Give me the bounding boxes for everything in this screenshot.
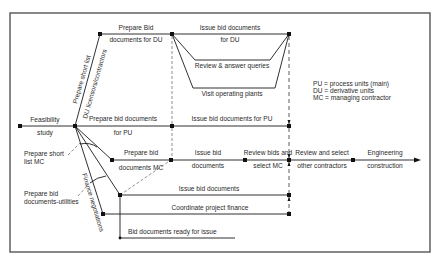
node-finance-end [287,212,291,216]
node-util-issue [287,193,291,197]
node-du-short-list [98,32,102,36]
label-review-bids: Review bids and [244,149,293,156]
legend: PU = process units (main) DU = derivativ… [313,80,392,102]
legend-mc: MC = managing contractor [313,94,392,102]
label-prep-bid-util-2: documents-utilities [24,198,79,205]
label-issue-bid-pu: Issue bid documents for PU [192,115,273,122]
node-select-other [351,158,355,162]
label-prep-bid-du-2: documents for DU [109,36,162,43]
arrowhead-icon [288,197,291,201]
node-start [18,124,22,128]
node-mc-prep [169,158,173,162]
label-review-queries: Review & answer queries [195,62,270,70]
label-short-list-mc: Prepare short [24,150,64,158]
label-prep-bid-mc: Prepare bid [124,149,158,157]
node-pu-issue [287,124,291,128]
label-prep-bid-pu: Prepare bid documents [89,115,158,123]
callout-short-list-mc [68,143,80,155]
label-feasibility-2: study [37,129,53,137]
node-du-prep [170,32,174,36]
label-review-select-2: other contractors [297,162,347,169]
node-feasibility-end [73,124,77,128]
node-du-issue [287,32,291,36]
arrowhead-icon [288,120,291,124]
node-mc-review [287,158,291,162]
arrowhead-icon [414,158,421,163]
node-mc-issue [243,158,247,162]
label-issue-bid-mc-2: documents [192,162,225,169]
label-issue-bid-mc: Issue bid [195,149,222,156]
node-bid-ready [119,237,122,240]
label-prep-bid-mc-2: documents MC [119,164,164,171]
node-mc-short-list [110,158,114,162]
label-review-bids-2: select MC [253,162,283,169]
label-short-list-mc-2: list MC [24,158,44,165]
label-issue-bid-du-2: for DU [220,36,239,43]
node-pu-prep [170,124,174,128]
label-coordinate-finance: Coordinate project finance [172,204,249,212]
label-bid-docs-ready: Bid documents ready for issue [128,228,217,236]
label-prep-bid-pu-2: for PU [114,129,133,136]
label-visit-plants: Visit operating plants [201,90,263,98]
label-issue-bid-du: Issue bid documents [200,24,261,31]
label-engineering: Engineering [367,149,403,157]
network-diagram: Feasibility study Prepare Bid documents … [0,0,440,260]
legend-du: DU = derivative units [313,87,375,94]
label-review-select: Review and select [295,149,349,156]
label-issue-bid-util: Issue bid documents [179,185,240,192]
diagram-frame [10,13,430,252]
label-prep-bid-du: Prepare Bid [119,24,154,32]
label-prep-bid-util: Prepare bid [24,190,58,198]
arrowhead-icon [288,162,291,166]
node-util-prep [118,193,122,197]
label-feasibility: Feasibility [30,116,60,124]
label-engineering-2: construction [367,162,403,169]
